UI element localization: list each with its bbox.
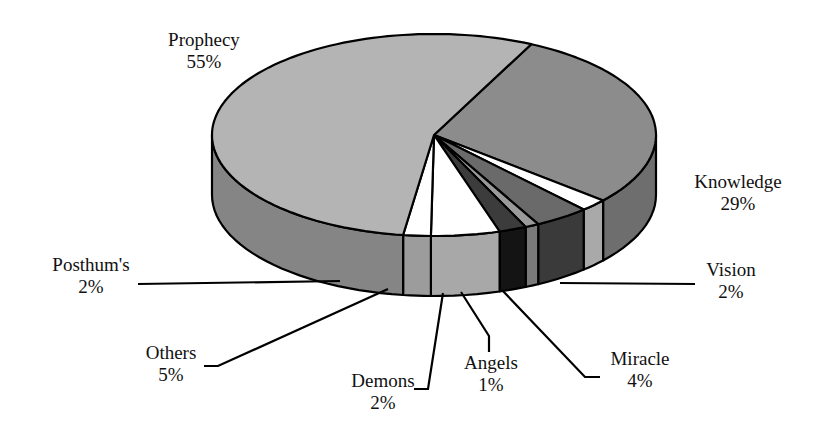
slice-side-others (431, 232, 500, 297)
slice-percent-others: 5% (158, 364, 184, 385)
slice-percent-knowledge: 29% (721, 193, 756, 214)
slice-percent-angels: 1% (478, 374, 504, 395)
slice-side-vision (584, 201, 603, 270)
leader-line-vision (560, 283, 695, 284)
slice-label-vision: Vision (706, 259, 756, 280)
slice-label-posthum-s: Posthum's (52, 254, 129, 275)
slice-percent-posthum-s: 2% (78, 276, 104, 297)
leader-line-others (204, 289, 388, 366)
leader-line-demons (414, 293, 443, 389)
slice-side-angels (526, 224, 539, 287)
pie-chart: Knowledge29%Vision2%Miracle4%Angels1%Dem… (0, 0, 828, 432)
slice-label-miracle: Miracle (610, 348, 669, 369)
slice-label-knowledge: Knowledge (694, 171, 782, 192)
slice-label-prophecy: Prophecy (168, 29, 240, 50)
slice-percent-miracle: 4% (627, 370, 653, 391)
slice-percent-vision: 2% (718, 281, 744, 302)
leader-lines (138, 281, 695, 389)
leader-line-posthum-s (138, 281, 340, 284)
slice-label-others: Others (146, 342, 197, 363)
slice-side-posthum-s (403, 235, 431, 296)
pie-tops (212, 34, 656, 236)
slice-percent-prophecy: 55% (187, 51, 222, 72)
slice-side-demons (500, 227, 526, 292)
slice-label-demons: Demons (351, 370, 414, 391)
slice-label-angels: Angels (464, 352, 518, 373)
slice-percent-demons: 2% (370, 392, 396, 413)
leader-line-angels (461, 292, 489, 352)
